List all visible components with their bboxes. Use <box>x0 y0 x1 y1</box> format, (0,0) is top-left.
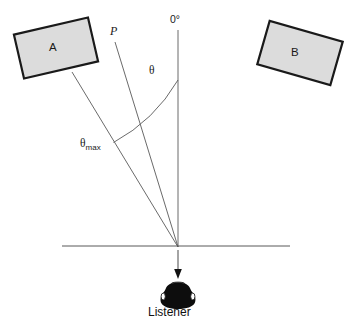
theta-arc <box>114 80 179 143</box>
speaker-b-shape <box>257 21 342 85</box>
speaker-a-ray-line <box>72 72 178 247</box>
listener-left-ear <box>161 293 165 300</box>
theta-max-subscript: max <box>86 143 101 152</box>
speaker-a-label: A <box>49 42 57 54</box>
zero-degree-label: 0° <box>170 14 180 25</box>
listener-arrow-head <box>174 269 182 279</box>
theta-max-label: θmax <box>80 138 101 152</box>
listener-right-ear <box>191 293 195 300</box>
speaker-b-label: B <box>291 47 299 59</box>
theta-label: θ <box>149 65 155 77</box>
phantom-source-ray-line <box>115 42 178 247</box>
phantom-source-label: P <box>110 25 117 37</box>
diagram-canvas: 0° P θ θmax A B Listener <box>0 0 350 326</box>
listener-label: Listener <box>148 306 191 318</box>
speaker-b-body <box>257 21 342 85</box>
